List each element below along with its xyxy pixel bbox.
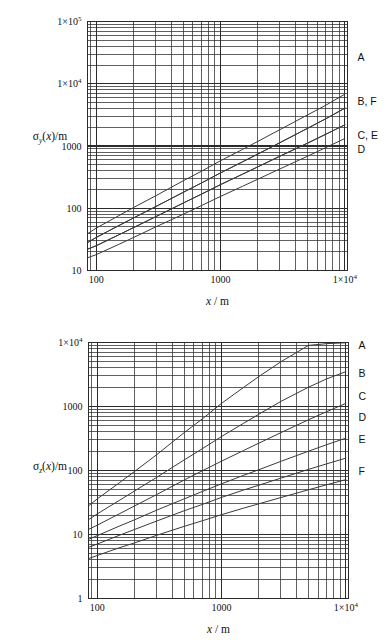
- y-tick-label: 100: [67, 203, 82, 214]
- curve-label-d: D: [358, 143, 366, 155]
- y-tick-exponent: 4: [78, 77, 82, 85]
- y-tick-exponent: 4: [79, 336, 83, 344]
- y-axis-title-variable: x: [45, 460, 52, 472]
- curve-label-a: A: [358, 51, 365, 63]
- curve-A: [89, 343, 346, 506]
- curve-C: [89, 403, 346, 529]
- curve-label-f: F: [359, 465, 365, 477]
- curve-label-c-e: C, E: [358, 129, 378, 141]
- y-tick-label: 1000: [63, 401, 83, 412]
- x-tick-label: 100: [90, 602, 105, 613]
- figure-page: 10010001×1041010010001×1041×105x / mσy(x…: [0, 0, 388, 644]
- x-axis-title: x / m: [205, 295, 229, 307]
- chart-sigma-y: 10010001×1041010010001×1041×105x / mσy(x…: [0, 0, 388, 322]
- curves: [89, 343, 346, 559]
- y-tick-label: 1×104: [57, 77, 82, 89]
- grid-lines: [89, 343, 349, 599]
- chart-text: 10010001×1041010010001×1041×105x / mσy(x…: [33, 15, 378, 307]
- curve-label-e: E: [359, 433, 366, 445]
- x-tick-label: 1×104: [334, 601, 359, 613]
- curve-label-b: B: [359, 367, 366, 379]
- y-tick-label: 100: [68, 465, 83, 476]
- y-axis-title-variable: x: [45, 130, 52, 142]
- y-tick-exponent: 5: [78, 15, 82, 23]
- y-tick-label: 10: [72, 265, 82, 276]
- x-tick-label: 1000: [211, 274, 231, 285]
- curve-D: [88, 138, 345, 257]
- x-tick-label: 1000: [212, 602, 232, 613]
- curve-A: [88, 94, 345, 234]
- y-axis-title: σz(x)/m: [33, 460, 67, 475]
- y-tick-label: 1: [78, 593, 83, 604]
- curve-D: [89, 438, 346, 539]
- curve-F: [88, 108, 345, 242]
- curve-label-b-f: B, F: [358, 95, 377, 107]
- curve-E: [88, 125, 345, 249]
- chart-sigma-z-svg: 10010001×10411010010001×104x / mσz(x)/mA…: [0, 322, 388, 644]
- y-tick-label: 1×104: [58, 336, 83, 348]
- chart-sigma-z: 10010001×10411010010001×104x / mσz(x)/mA…: [0, 322, 388, 644]
- y-tick-label: 10: [73, 529, 83, 540]
- curve-F: [89, 480, 346, 559]
- x-tick-exponent: 4: [353, 273, 357, 281]
- y-tick-label: 1×105: [57, 15, 82, 27]
- curve-label-c: C: [359, 390, 367, 402]
- curve-label-a: A: [359, 339, 366, 351]
- figure-caption-fragment: [0, 630, 388, 644]
- curve-B: [89, 372, 346, 520]
- grid-lines: [88, 22, 348, 271]
- x-axis-title-variable: x: [205, 295, 212, 307]
- chart-sigma-y-svg: 10010001×1041010010001×1041×105x / mσy(x…: [0, 0, 388, 322]
- x-tick-label: 100: [89, 274, 104, 285]
- x-tick-exponent: 4: [354, 601, 358, 609]
- y-tick-label: 1000: [62, 141, 82, 152]
- chart-text: 10010001×10411010010001×104x / mσz(x)/mA…: [33, 336, 367, 635]
- x-tick-label: 1×104: [333, 273, 358, 285]
- curve-label-d: D: [359, 411, 367, 423]
